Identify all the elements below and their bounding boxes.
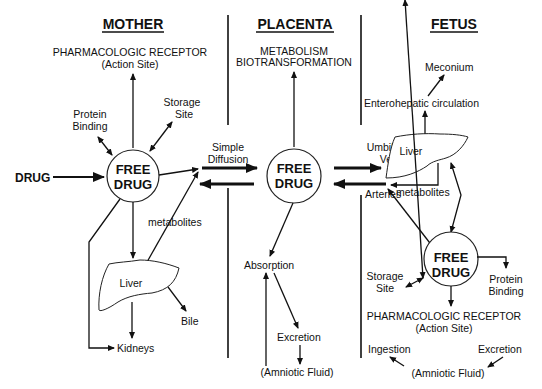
mother-free-drug-sublabel: DRUG — [114, 177, 152, 192]
mother-free-drug-label: FREE — [116, 162, 151, 177]
fetus-amniotic-label: (Amniotic Fluid) — [412, 367, 485, 379]
fetus-enterohepatic-label: Enterohepatic circulation — [364, 97, 479, 109]
placenta-excretion-label: Excretion — [277, 331, 321, 343]
fetus-storage-sublabel: Site — [376, 282, 394, 294]
mother-protein-binding-label: Protein — [73, 108, 106, 120]
header-placenta: PLACENTA — [257, 16, 332, 32]
placenta-biotransformation-label: BIOTRANSFORMATION — [236, 56, 352, 68]
simple-diffusion-label: Simple — [212, 141, 244, 153]
fetus-ingestion-label: Ingestion — [368, 343, 411, 355]
header-mother: MOTHER — [103, 16, 164, 32]
fetus-storage-arrow-line — [406, 278, 423, 287]
mother-bile-label: Bile — [181, 315, 199, 327]
fetus-receptor-label: PHARMACOLOGIC RECEPTOR — [367, 310, 522, 322]
fetus-receptor-sublabel: (Action Site) — [415, 322, 472, 334]
fetus-free-drug-label: FREE — [434, 250, 469, 265]
excretion-to-amniotic-fetus-arrow — [488, 357, 503, 367]
fetus-storage-label: Storage — [367, 270, 404, 282]
placenta-amniotic-label: (Amniotic Fluid) — [261, 366, 334, 378]
placenta-absorption-label: Absorption — [244, 259, 294, 271]
mother-storage-arrow — [150, 122, 172, 151]
mother-kidneys-label: Kidneys — [117, 342, 154, 354]
fetus-protein-binding-arrow — [477, 257, 506, 268]
drug-distribution-diagram: MOTHER PLACENTA FETUS PHARMACOLOGIC RECE… — [0, 0, 542, 389]
mother-to-diffusion-line — [159, 169, 198, 175]
enterohepatic-to-meconium-arrow — [428, 75, 444, 96]
fetus-liver-shape — [386, 134, 468, 178]
mother-protein-binding-sublabel: Binding — [72, 120, 107, 132]
mother-drug-label: DRUG — [15, 171, 50, 185]
placenta-free-drug-label: FREE — [277, 161, 312, 176]
mother-protein-binding-arrow — [98, 137, 112, 155]
mother-metabolites-label: metabolites — [148, 216, 202, 228]
absorption-to-excretion-arrow — [274, 273, 298, 328]
placenta-to-absorption-arrow — [270, 203, 293, 256]
mother-storage-label: Storage — [164, 96, 201, 108]
mother-liver-label: Liver — [120, 277, 143, 289]
header-fetus: FETUS — [431, 16, 477, 32]
mother-receptor-label: PHARMACOLOGIC RECEPTOR — [53, 46, 208, 58]
fetus-meconium-label: Meconium — [425, 61, 474, 73]
placenta-free-drug-sublabel: DRUG — [275, 176, 313, 191]
amniotic-to-ingestion-arrow — [390, 357, 404, 366]
fetus-excretion-label: Excretion — [478, 343, 522, 355]
simple-diffusion-sublabel: Diffusion — [208, 153, 249, 165]
fetus-metabolites-label: metabolites — [396, 186, 450, 198]
fetus-protein-binding-sublabel: Binding — [488, 285, 523, 297]
fetus-liver-label: Liver — [400, 145, 423, 157]
fetus-free-drug-liver-arrow — [451, 163, 461, 232]
fetus-protein-binding-label: Protein — [489, 273, 522, 285]
fetus-free-drug-sublabel: DRUG — [432, 265, 470, 280]
mother-liver-to-bile-arrow — [168, 287, 186, 311]
mother-receptor-sublabel: (Action Site) — [101, 58, 158, 70]
mother-storage-sublabel: Site — [175, 108, 193, 120]
